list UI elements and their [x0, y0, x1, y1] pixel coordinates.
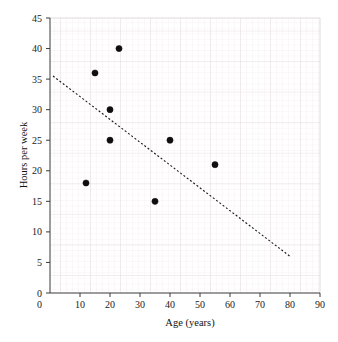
x-tick-label: 90 — [315, 299, 325, 310]
y-tick-label: 5 — [37, 257, 42, 268]
data-point — [116, 45, 122, 51]
x-tick-label: 70 — [255, 299, 265, 310]
y-tick-label: 20 — [32, 165, 42, 176]
x-axis-title: Age (years) — [165, 317, 215, 329]
x-tick-label: 50 — [195, 299, 205, 310]
x-axis-tick-labels: 0102030405060708090 — [37, 299, 325, 310]
x-tick-label: 0 — [37, 299, 42, 310]
x-tick-label: 20 — [105, 299, 115, 310]
y-tick-label: 35 — [32, 74, 42, 85]
x-tick-label: 80 — [285, 299, 295, 310]
y-tick-label: 0 — [37, 288, 42, 299]
data-point — [83, 180, 89, 186]
data-point — [212, 162, 218, 168]
x-tick-label: 40 — [165, 299, 175, 310]
x-axis: 0102030405060708090 Age (years) — [37, 293, 325, 329]
x-tick-label: 10 — [75, 299, 85, 310]
data-point — [107, 137, 113, 143]
y-tick-label: 45 — [32, 13, 42, 24]
data-point — [107, 107, 113, 113]
x-tick-label: 30 — [135, 299, 145, 310]
y-tick-label: 40 — [32, 43, 42, 54]
x-axis-tick-marks — [80, 293, 320, 297]
major-gridlines — [50, 18, 320, 293]
y-tick-label: 30 — [32, 104, 42, 115]
y-axis-tick-marks — [46, 18, 50, 293]
y-tick-label: 25 — [32, 135, 42, 146]
y-axis-title: Hours per week — [18, 121, 29, 188]
y-tick-label: 10 — [32, 226, 42, 237]
y-axis: 051015202530354045 Hours per week — [18, 13, 50, 299]
data-point — [92, 70, 98, 76]
data-point — [152, 198, 158, 204]
y-tick-label: 15 — [32, 196, 42, 207]
scatter-plot-figure: 051015202530354045 Hours per week 010203… — [0, 0, 338, 342]
chart-canvas: 051015202530354045 Hours per week 010203… — [0, 0, 338, 342]
y-axis-tick-labels: 051015202530354045 — [32, 13, 42, 299]
x-tick-label: 60 — [225, 299, 235, 310]
data-point — [167, 137, 173, 143]
